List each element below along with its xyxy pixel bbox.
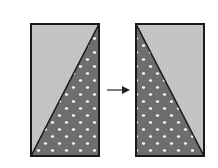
arrow-right-icon xyxy=(107,86,130,94)
transformation-diagram xyxy=(0,0,218,168)
left-rectangle xyxy=(31,24,99,156)
right-rectangle xyxy=(136,24,204,156)
